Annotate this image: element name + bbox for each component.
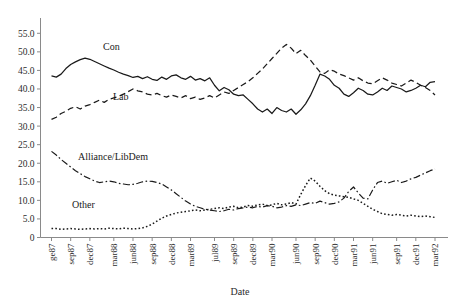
- y-tick-label: 5.0: [23, 214, 35, 224]
- series-lines: [52, 44, 436, 229]
- x-tick-label: mar92: [430, 244, 440, 267]
- x-tick-label: mar88: [109, 243, 119, 266]
- x-tick-label: dec87: [85, 243, 95, 265]
- x-tick-label: dec89: [248, 243, 258, 265]
- y-axis: 05.010.015.020.025.030.035.040.045.050.0…: [18, 18, 41, 243]
- y-tick-label: 35.0: [18, 103, 35, 113]
- y-tick-label: 50.0: [18, 47, 35, 57]
- y-tick-label: 30.0: [18, 122, 35, 132]
- series-line-other: [52, 178, 436, 229]
- x-tick-label: ge87: [47, 243, 57, 261]
- x-tick-label: sep90: [311, 243, 321, 264]
- y-tick-label: 55.0: [18, 29, 35, 39]
- y-tick-label: 40.0: [18, 84, 35, 94]
- x-axis: ge87sep87dec87mar88jun88sep88dec88mar89j…: [41, 238, 449, 267]
- series-label-other: Other: [72, 199, 95, 210]
- x-tick-label: sep88: [148, 243, 158, 264]
- y-tick-label: 20.0: [18, 159, 35, 169]
- x-tick-label: dec91: [411, 244, 421, 266]
- x-tick-label: jun90: [291, 243, 301, 265]
- series-label-con: Con: [103, 41, 120, 52]
- x-tick-label: dec88: [167, 243, 177, 265]
- series-label-alliance-libdem: Alliance/LibDem: [78, 151, 148, 162]
- series-label-lab: Lab: [113, 91, 129, 102]
- line-chart: 05.010.015.020.025.030.035.040.045.050.0…: [0, 0, 462, 306]
- x-axis-title: Date: [231, 286, 250, 297]
- series-line-lab: [52, 44, 436, 119]
- series-labels: ConLabAlliance/LibDemOther: [72, 41, 148, 210]
- y-tick-label: 0: [30, 233, 35, 243]
- x-tick-label: sep89: [229, 243, 239, 264]
- x-tick-label: dec90: [330, 243, 340, 265]
- x-tick-label: jul89: [210, 243, 220, 263]
- x-tick-label: sep91: [392, 244, 402, 265]
- y-tick-label: 25.0: [18, 140, 35, 150]
- x-tick-label: jun88: [128, 243, 138, 265]
- x-tick-label: jun91: [368, 244, 378, 266]
- y-tick-label: 15.0: [18, 177, 35, 187]
- series-line-con: [52, 58, 436, 114]
- y-tick-label: 45.0: [18, 66, 35, 76]
- x-tick-label: sep87: [66, 243, 76, 264]
- x-tick-label: mar90: [267, 243, 277, 266]
- y-tick-label: 10.0: [18, 196, 35, 206]
- x-tick-label: mar91: [349, 244, 359, 267]
- chart-canvas: 05.010.015.020.025.030.035.040.045.050.0…: [0, 0, 462, 306]
- x-tick-label: mar89: [186, 243, 196, 266]
